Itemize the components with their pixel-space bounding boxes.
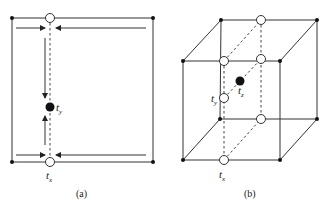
square-outline [12,18,153,162]
cube-edge [280,20,317,61]
vertex-icon [181,59,185,63]
cube-edge [280,119,317,160]
caption-b: (b) [244,188,256,200]
label-tx: tx [219,168,226,183]
label-tz: tz [238,84,244,99]
label-tx: tx [46,169,53,184]
panel-a: ty tx (a) [10,14,155,201]
vertex-icon [10,160,14,164]
open-point-icon [46,158,55,167]
open-point-icon [257,55,266,64]
vertex-icon [181,158,185,162]
caption-a: (a) [76,188,87,200]
cube-edge [183,20,221,61]
vertex-icon [218,117,222,121]
interp-line [224,119,261,160]
open-point-icon [220,94,229,103]
open-point-icon [220,57,229,66]
cube-front-face [183,61,280,160]
vertex-icon [151,16,155,20]
open-point-icon [220,156,229,165]
vertex-icon [315,18,319,22]
vertex-icon [10,16,14,20]
open-point-icon [46,14,55,23]
label-ty: ty [56,101,63,116]
vertex-icon [278,59,282,63]
label-ty: ty [211,92,218,107]
open-point-icon [257,115,266,124]
vertex-icon [219,18,223,22]
vertex-icon [278,158,282,162]
interp-line [224,20,261,61]
vertex-icon [315,117,319,121]
cube-edge [183,119,220,160]
vertex-icon [151,160,155,164]
panel-b: ty tz tx (b) [181,16,319,201]
open-point-icon [257,16,266,25]
target-point-icon [46,103,55,112]
cube-back-face [220,20,317,119]
figure: ty tx (a) [0,0,326,207]
